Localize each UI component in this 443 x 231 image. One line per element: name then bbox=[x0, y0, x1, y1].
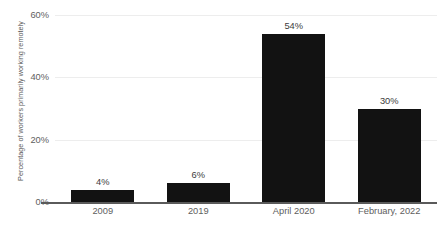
x-axis-line bbox=[41, 202, 437, 204]
bar-value-label: 4% bbox=[96, 177, 109, 187]
bar: 4% bbox=[71, 190, 134, 202]
bar-chart-figure: Percentage of workers primarily working … bbox=[0, 0, 443, 231]
bar-value-label: 6% bbox=[192, 170, 205, 180]
y-axis-tick-label: 40% bbox=[30, 72, 49, 82]
x-axis-tick-label: 2019 bbox=[188, 206, 209, 216]
y-axis-tick-label: 60% bbox=[30, 10, 49, 20]
bar: 30% bbox=[358, 109, 421, 203]
bar-value-label: 54% bbox=[284, 21, 303, 31]
bar: 6% bbox=[167, 183, 230, 202]
x-axis-tick-label: April 2020 bbox=[273, 206, 315, 216]
x-axis-tick-label: February, 2022 bbox=[358, 206, 420, 216]
bar-value-label: 30% bbox=[380, 96, 399, 106]
y-axis-tick-label: 20% bbox=[30, 135, 49, 145]
y-axis-title: Percentage of workers primarily working … bbox=[14, 0, 28, 202]
gridline bbox=[55, 15, 437, 16]
x-axis-tick-label: 2009 bbox=[92, 206, 113, 216]
gridline bbox=[55, 77, 437, 78]
plot-area: 0%20%40%60% 4%6%54%30% bbox=[55, 15, 437, 202]
bar: 54% bbox=[262, 34, 325, 202]
